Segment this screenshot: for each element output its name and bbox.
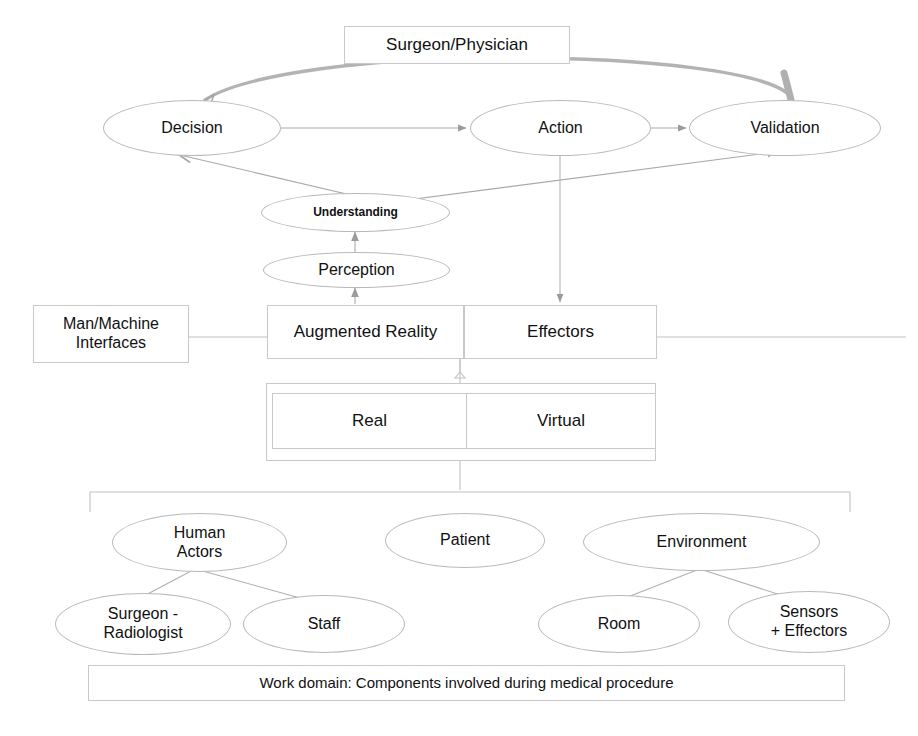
node-work-domain-label: Work domain: Components involved during … xyxy=(259,674,673,692)
node-staff-label: Staff xyxy=(308,615,341,634)
node-sensors-effectors-label-line1: Sensors xyxy=(780,603,839,622)
node-real[interactable]: Real xyxy=(272,393,467,449)
node-staff[interactable]: Staff xyxy=(243,595,405,653)
node-action-label: Action xyxy=(538,119,582,138)
node-validation-label: Validation xyxy=(750,119,819,138)
node-patient[interactable]: Patient xyxy=(385,513,545,568)
node-work-domain[interactable]: Work domain: Components involved during … xyxy=(88,665,845,701)
edge-understanding-decision xyxy=(180,155,355,196)
node-augmented-reality-label: Augmented Reality xyxy=(294,322,438,342)
node-environment-label: Environment xyxy=(657,533,747,552)
node-action[interactable]: Action xyxy=(470,100,651,156)
node-understanding-label: Understanding xyxy=(313,205,398,219)
node-effectors-label: Effectors xyxy=(527,322,594,342)
edge-humanactors-staff xyxy=(199,570,300,598)
node-understanding[interactable]: Understanding xyxy=(261,193,450,232)
node-room-label: Room xyxy=(598,615,641,634)
node-real-label: Real xyxy=(352,411,387,431)
node-room[interactable]: Room xyxy=(538,595,700,653)
node-environment[interactable]: Environment xyxy=(583,513,820,571)
brace-ar-to-realvirtual xyxy=(455,359,465,378)
node-virtual[interactable]: Virtual xyxy=(466,393,656,449)
diagram-canvas: Surgeon/Physician Decision Action Valida… xyxy=(0,0,918,736)
node-augmented-reality[interactable]: Augmented Reality xyxy=(267,305,464,359)
node-surgeon-radiologist-label-line1: Surgeon - xyxy=(108,605,178,624)
node-surgeon-physician-label: Surgeon/Physician xyxy=(386,35,528,55)
node-surgeon-radiologist-label-line2: Radiologist xyxy=(103,624,182,643)
node-validation[interactable]: Validation xyxy=(689,100,881,156)
edge-environment-room xyxy=(625,570,697,598)
node-sensors-effectors[interactable]: Sensors + Effectors xyxy=(728,591,890,653)
edge-validation-decision-curve xyxy=(205,58,793,101)
node-man-machine-interfaces[interactable]: Man/Machine Interfaces xyxy=(33,305,189,363)
node-surgeon-physician[interactable]: Surgeon/Physician xyxy=(344,26,570,64)
node-perception[interactable]: Perception xyxy=(263,252,450,288)
node-perception-label: Perception xyxy=(318,261,395,280)
node-patient-label: Patient xyxy=(440,531,490,550)
node-mmi-label-line1: Man/Machine xyxy=(63,315,159,334)
node-virtual-label: Virtual xyxy=(537,411,585,431)
node-sensors-effectors-label-line2: + Effectors xyxy=(771,622,848,641)
node-effectors[interactable]: Effectors xyxy=(464,305,657,359)
node-decision-label: Decision xyxy=(161,119,222,138)
node-decision[interactable]: Decision xyxy=(103,100,281,156)
node-human-actors[interactable]: Human Actors xyxy=(112,513,287,572)
node-surgeon-radiologist[interactable]: Surgeon - Radiologist xyxy=(55,593,231,655)
bracket-work-domain xyxy=(90,492,850,512)
edge-validation-decision-tail-thick xyxy=(784,73,791,100)
node-human-actors-label-line2: Actors xyxy=(177,543,222,562)
node-human-actors-label-line1: Human xyxy=(174,524,226,543)
node-mmi-label-line2: Interfaces xyxy=(76,334,146,353)
